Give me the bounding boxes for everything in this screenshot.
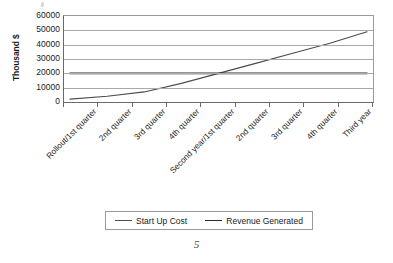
page-number: 5 [0, 238, 393, 250]
y-axis-tick-label: 50000 [36, 25, 60, 34]
line-chart-figure: Thousand $ 01000020000300004000050000600… [0, 0, 393, 263]
gridline [64, 59, 373, 60]
gridline [64, 88, 373, 89]
y-axis-tick-labels: 0100002000030000400005000060000 [22, 15, 60, 101]
chart-legend: Start Up Cost Revenue Generated [105, 211, 313, 230]
plot-area [63, 15, 374, 103]
legend-entry-revenue-generated: Revenue Generated [205, 216, 303, 226]
legend-label: Revenue Generated [226, 216, 303, 226]
y-axis-tick-label: 10000 [36, 82, 60, 91]
gridline [64, 73, 373, 74]
gridline [64, 30, 373, 31]
legend-swatch-icon [205, 220, 222, 221]
legend-entry-start-up-cost: Start Up Cost [115, 216, 187, 226]
gridline [64, 45, 373, 46]
legend-label: Start Up Cost [136, 216, 187, 226]
y-axis-tick-label: 20000 [36, 68, 60, 77]
series-line [70, 32, 367, 99]
y-axis-tick-label: 0 [55, 97, 60, 106]
y-axis-tick-label: 30000 [36, 54, 60, 63]
scan-speck [41, 2, 45, 8]
y-axis-tick-label: 60000 [36, 11, 60, 20]
legend-swatch-icon [115, 220, 132, 221]
x-axis-category-labels: Rollout/1st quarter2nd quarter3rd quarte… [0, 107, 393, 187]
y-axis-tick-label: 40000 [36, 39, 60, 48]
